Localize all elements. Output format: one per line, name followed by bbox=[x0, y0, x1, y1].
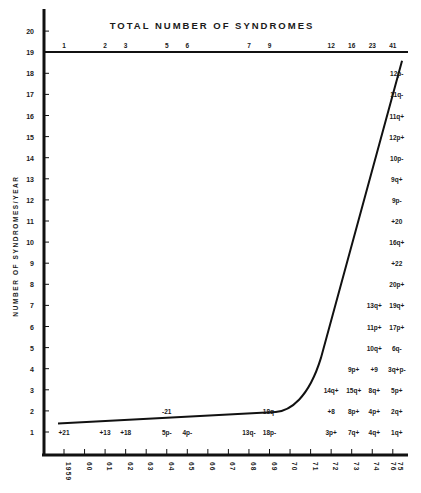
x-tick-label: 71 bbox=[312, 462, 319, 472]
y-tick-label: 12 bbox=[26, 197, 34, 204]
chart-title: TOTAL NUMBER OF SYNDROMES bbox=[110, 20, 315, 31]
syndrome-label: 9p+ bbox=[348, 366, 360, 374]
syndrome-label: 13q- bbox=[242, 429, 255, 437]
syndrome-label: 12p- bbox=[390, 70, 403, 78]
y-tick-label: 2 bbox=[30, 408, 34, 415]
svg-text:64: 64 bbox=[168, 462, 175, 472]
top-cumulative-totals: 123567912162341 bbox=[62, 42, 397, 49]
y-tick-label: 3 bbox=[30, 387, 34, 394]
svg-text:70: 70 bbox=[291, 462, 298, 472]
x-tick-label: 69 bbox=[271, 462, 278, 472]
top-total-label: 16 bbox=[348, 42, 356, 49]
syndrome-label: +21 bbox=[58, 429, 69, 436]
x-tick-label: 67 bbox=[229, 462, 236, 472]
top-total-label: 6 bbox=[185, 42, 189, 49]
y-tick-label: 6 bbox=[30, 324, 34, 331]
y-tick-label: 17 bbox=[26, 91, 34, 98]
top-total-label: 1 bbox=[62, 42, 66, 49]
syndrome-label: 9p- bbox=[392, 197, 402, 205]
syndromes-chart: 1234567891011121314151617181920 19596061… bbox=[0, 0, 421, 493]
top-total-label: 23 bbox=[369, 42, 377, 49]
syndrome-label: 18q- bbox=[263, 408, 276, 416]
syndrome-label: +9 bbox=[371, 366, 379, 373]
svg-text:73: 73 bbox=[353, 462, 360, 472]
y-tick-label: 19 bbox=[26, 49, 34, 56]
x-tick-label: 68 bbox=[250, 462, 257, 472]
y-tick-label: 5 bbox=[30, 345, 34, 352]
y-tick-label: 18 bbox=[26, 70, 34, 77]
syndrome-label: -21 bbox=[162, 408, 172, 415]
y-tick-label: 11 bbox=[27, 218, 35, 225]
x-tick-label: 60 bbox=[86, 462, 93, 472]
y-tick-label: 8 bbox=[30, 281, 34, 288]
y-tick-label: 14 bbox=[26, 155, 34, 162]
syndrome-label: 13q+ bbox=[367, 302, 382, 310]
top-total-label: 7 bbox=[247, 42, 251, 49]
svg-text:68: 68 bbox=[250, 462, 257, 472]
syndrome-label: 16q+ bbox=[389, 239, 404, 247]
syndrome-label: 1q+ bbox=[391, 429, 403, 437]
y-tick-label: 4 bbox=[30, 366, 34, 373]
syndrome-label: 7q+ bbox=[348, 429, 360, 437]
x-tick-label: 1959 bbox=[65, 462, 72, 481]
syndrome-label: 10q+ bbox=[367, 345, 382, 353]
svg-text:66: 66 bbox=[209, 462, 216, 472]
syndrome-label: 4q+ bbox=[369, 429, 381, 437]
syndrome-label: +18 bbox=[120, 429, 131, 436]
syndrome-label: 8p+ bbox=[348, 408, 360, 416]
syndrome-label: 3p+ bbox=[325, 429, 337, 437]
syndrome-label: 11q- bbox=[390, 91, 403, 99]
syndrome-label: 4p- bbox=[182, 429, 192, 437]
top-total-label: 12 bbox=[328, 42, 336, 49]
x-tick-label: 66 bbox=[209, 462, 216, 472]
y-axis-title: NUMBER OF SYNDROMES/YEAR bbox=[12, 175, 19, 316]
syndrome-label: 9q+ bbox=[391, 176, 403, 184]
syndrome-label: 14q+ bbox=[324, 387, 339, 395]
syndrome-label: 3q+p- bbox=[388, 366, 406, 374]
syndrome-label: +13 bbox=[100, 429, 111, 436]
top-total-label: 41 bbox=[389, 42, 397, 49]
svg-text:1959: 1959 bbox=[65, 462, 72, 481]
y-tick-label: 9 bbox=[30, 260, 34, 267]
svg-text:71: 71 bbox=[312, 462, 319, 472]
svg-text:76: 76 bbox=[390, 462, 397, 472]
syndrome-annotations: +21+13+185p-4p--2113q-18p-18q-3p++814q+7… bbox=[58, 70, 405, 437]
y-tick-label: 20 bbox=[26, 28, 34, 35]
syndrome-label: 17p+ bbox=[389, 324, 404, 332]
top-total-label: 5 bbox=[165, 42, 169, 49]
svg-text:60: 60 bbox=[86, 462, 93, 472]
svg-text:74: 74 bbox=[373, 462, 380, 472]
x-tick-label: 63 bbox=[147, 462, 154, 472]
svg-text:62: 62 bbox=[127, 462, 134, 472]
syndrome-label: 6q- bbox=[392, 345, 402, 353]
x-tick-label: 72 bbox=[332, 462, 339, 472]
svg-text:65: 65 bbox=[188, 462, 195, 472]
x-tick-label: 70 bbox=[291, 462, 298, 472]
top-total-label: 2 bbox=[103, 42, 107, 49]
y-tick-label: 1 bbox=[30, 429, 34, 436]
y-tick-label: 7 bbox=[30, 302, 34, 309]
syndrome-label: 11q+ bbox=[389, 113, 404, 121]
x-tick-label: 62 bbox=[127, 462, 134, 472]
y-tick-label: 15 bbox=[26, 134, 34, 141]
syndrome-label: 5p- bbox=[162, 429, 172, 437]
svg-text:61: 61 bbox=[106, 462, 113, 472]
svg-text:69: 69 bbox=[271, 462, 278, 472]
syndrome-label: +8 bbox=[327, 408, 335, 415]
y-tick-label: 16 bbox=[26, 113, 34, 120]
syndrome-label: 8q+ bbox=[369, 387, 381, 395]
syndrome-label: 15q+ bbox=[346, 387, 361, 395]
syndrome-label: 10p- bbox=[390, 155, 403, 163]
syndrome-label: +22 bbox=[391, 260, 402, 267]
svg-text:67: 67 bbox=[229, 462, 236, 472]
syndrome-label: 12p+ bbox=[389, 134, 404, 142]
x-tick-label: 74 bbox=[373, 462, 380, 472]
x-tick-label: 65 bbox=[188, 462, 195, 472]
syndrome-label: 19q+ bbox=[389, 302, 404, 310]
top-total-label: 9 bbox=[268, 42, 272, 49]
syndrome-label: 2q+ bbox=[391, 408, 403, 416]
y-tick-label: 13 bbox=[26, 176, 34, 183]
x-tick-label: 7576 bbox=[390, 462, 404, 472]
x-tick-label: 73 bbox=[353, 462, 360, 472]
syndrome-label: 20p+ bbox=[389, 281, 404, 289]
